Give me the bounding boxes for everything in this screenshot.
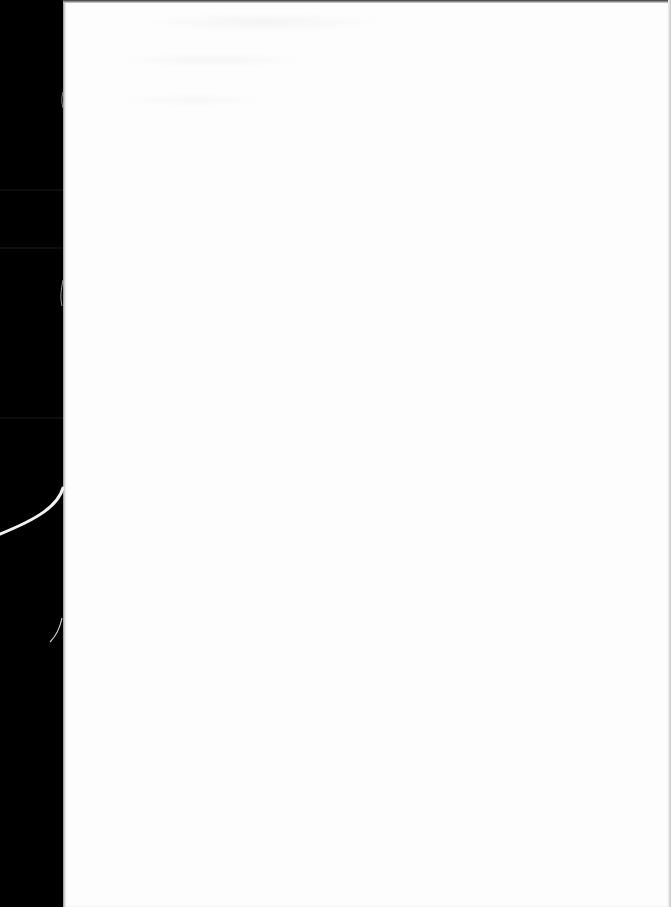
loose-thread-icon [0,0,671,907]
